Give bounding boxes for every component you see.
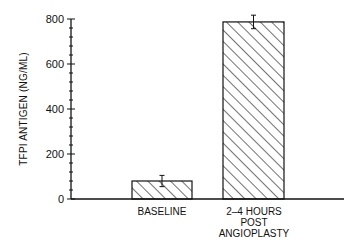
category-label-post-angioplasty: 2–4 HOURS POST ANGIOPLASTY bbox=[204, 206, 304, 239]
y-tick-label-200: 200 bbox=[46, 148, 64, 160]
category-label-baseline: BASELINE bbox=[117, 206, 207, 217]
y-tick-label-800: 800 bbox=[46, 13, 64, 25]
bar-post-angioplasty bbox=[223, 22, 284, 199]
bars bbox=[132, 15, 284, 199]
y-axis-label: TFPI ANTIGEN (NG/ML) bbox=[18, 52, 29, 165]
y-tick-label-400: 400 bbox=[46, 103, 64, 115]
y-tick-label-600: 600 bbox=[46, 58, 64, 70]
y-ticks bbox=[67, 19, 75, 199]
y-tick-label-0: 0 bbox=[58, 193, 64, 205]
